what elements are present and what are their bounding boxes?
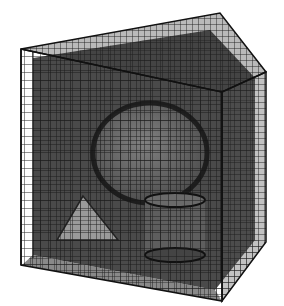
cube-right-face xyxy=(222,72,266,301)
mesh-figure xyxy=(0,0,284,306)
cube-front-face xyxy=(21,49,222,301)
